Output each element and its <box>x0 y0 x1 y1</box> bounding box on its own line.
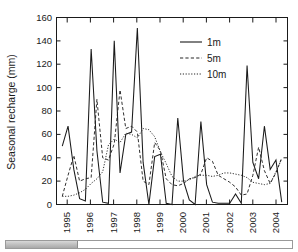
legend-label-1m: 1m <box>207 37 221 48</box>
x-tick-label: 2004 <box>270 212 281 233</box>
y-tick-label: 40 <box>41 152 52 163</box>
x-tick-label: 2000 <box>177 212 188 233</box>
x-tick-label: 1998 <box>131 212 142 233</box>
x-tick-label: 1995 <box>61 212 72 233</box>
y-tick-label: 60 <box>41 128 52 139</box>
scrollbar-thumb[interactable] <box>6 241 78 248</box>
chart-figure: Seasonal recharge (mm) 160 140 120 100 8… <box>0 0 298 252</box>
legend-label-10m: 10m <box>207 69 226 80</box>
y-tick-label: 20 <box>41 175 52 186</box>
y-tick-label: 100 <box>36 82 52 93</box>
y-tick-label: 120 <box>36 58 52 69</box>
series-line-1m <box>62 28 281 204</box>
y-tick-labels: 160 140 120 100 80 60 40 20 0 <box>36 12 52 210</box>
y-axis-title: Seasonal recharge (mm) <box>5 54 17 170</box>
x-tick-labels: 1995 1996 1997 1998 1999 2000 2001 2002 … <box>61 212 281 233</box>
legend-label-5m: 5m <box>207 53 221 64</box>
y-tick-label: 140 <box>36 35 52 46</box>
seasonal-recharge-line-chart: Seasonal recharge (mm) 160 140 120 100 8… <box>0 0 298 238</box>
x-tick-label: 1996 <box>84 212 95 233</box>
series-line-10m <box>62 129 281 197</box>
y-tick-label: 80 <box>41 105 52 116</box>
x-tick-label: 1997 <box>108 212 119 233</box>
x-tick-label: 1999 <box>154 212 165 233</box>
x-tick-label: 2001 <box>200 212 211 233</box>
data-series-group <box>62 28 281 204</box>
horizontal-scrollbar[interactable] <box>5 240 293 249</box>
x-tick-label: 2002 <box>224 212 235 233</box>
y-tick-label: 160 <box>36 12 52 23</box>
x-tick-label: 2003 <box>247 212 258 233</box>
y-tick-label: 0 <box>47 199 52 210</box>
series-line-5m <box>62 90 281 196</box>
chart-legend: 1m 5m 10m <box>180 37 226 80</box>
